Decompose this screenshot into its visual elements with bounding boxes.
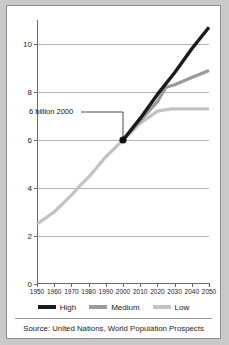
chart-legend: HighMediumLow	[7, 298, 220, 316]
annotation-marker-dot	[119, 136, 126, 143]
x-tick-mark	[209, 283, 210, 287]
legend-entry: Low	[153, 303, 190, 312]
annotation-leader-line	[81, 112, 123, 140]
legend-swatch	[38, 305, 56, 309]
legend-entry: High	[38, 303, 76, 312]
footer-divider	[15, 318, 212, 319]
x-tick-label: 1970	[64, 288, 78, 295]
series-line	[37, 140, 123, 224]
x-tick-label: 2050	[202, 288, 216, 295]
legend-swatch	[153, 305, 171, 309]
y-tick-label: 6	[28, 136, 32, 145]
x-tick-label: 2020	[150, 288, 164, 295]
legend-entry: Medium	[89, 303, 139, 312]
legend-label: Medium	[111, 303, 139, 312]
y-tick-label: 2	[28, 232, 32, 241]
y-tick-label: 8	[28, 88, 32, 97]
x-tick-label: 2030	[167, 288, 181, 295]
series-lines	[37, 20, 209, 284]
plot-area: 0246810 19501960197019801990200020102020…	[37, 20, 209, 284]
x-tick-label: 2000	[116, 288, 130, 295]
y-tick-label: 4	[28, 184, 32, 193]
x-tick-label: 1950	[30, 288, 44, 295]
x-tick-label: 1960	[47, 288, 61, 295]
y-tick-label: 10	[23, 40, 32, 49]
annotation-label: 6 billion 2000	[29, 107, 73, 116]
x-tick-label: 1980	[81, 288, 95, 295]
source-note: Source: United Nations, World Population…	[7, 324, 220, 333]
x-tick-label: 2010	[133, 288, 147, 295]
x-tick-label: 1990	[99, 288, 113, 295]
legend-label: Low	[175, 303, 190, 312]
legend-swatch	[89, 305, 107, 309]
x-tick-label: 2040	[185, 288, 199, 295]
chart-figure: 0246810 19501960197019801990200020102020…	[6, 5, 221, 339]
series-line	[123, 27, 209, 140]
legend-label: High	[60, 303, 76, 312]
